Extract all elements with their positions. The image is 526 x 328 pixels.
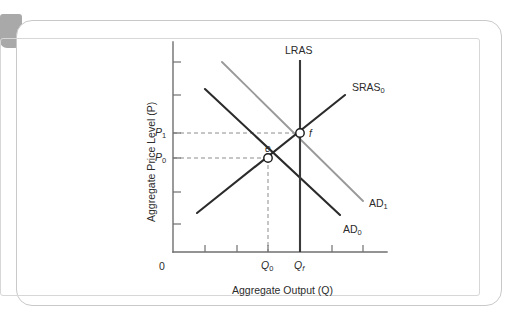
x-tick-label-q0-sub: 0	[269, 264, 273, 273]
curve-label-lras: LRAS	[285, 45, 312, 56]
point-label-e: e	[265, 144, 271, 154]
y-tick-label-p0-base: P	[155, 151, 162, 163]
x-tick-label-q0: Q0	[261, 260, 273, 272]
y-tick-label-p0-sub: 0	[162, 156, 166, 165]
y-tick-label-p1-sub: 1	[162, 131, 166, 140]
x-tick-label-q0-base: Q	[261, 259, 269, 271]
curve-label-ad0-base: AD	[343, 223, 358, 235]
ad-as-plot	[0, 0, 526, 328]
curve-label-sras0: SRAS0	[352, 82, 385, 94]
curve-sras0	[197, 95, 345, 213]
x-axis-ticks	[205, 245, 363, 252]
curve-label-sras0-sub: 0	[381, 86, 385, 95]
curve-label-ad0-sub: 0	[358, 228, 362, 237]
guide-lines	[173, 133, 300, 252]
x-tick-label-qf-sub: f	[302, 264, 304, 273]
point-label-f: f	[309, 129, 312, 139]
curve-label-ad0: AD0	[343, 224, 362, 236]
curve-label-ad1-sub: 1	[384, 202, 388, 211]
x-tick-label-qf-base: Q	[294, 259, 302, 271]
curve-ad1	[222, 62, 363, 201]
point-f-marker	[296, 129, 304, 137]
figure-root: Aggregate Price Level (P) Aggregate Outp…	[0, 0, 526, 328]
y-axis-ticks	[173, 62, 181, 224]
x-tick-label-qf: Qf	[294, 260, 304, 272]
origin-label: 0	[159, 261, 165, 272]
curve-label-ad1: AD1	[369, 198, 388, 210]
y-tick-label-p1-base: P	[155, 126, 162, 138]
x-axis-title: Aggregate Output (Q)	[232, 285, 333, 296]
curve-label-sras0-base: SRAS	[352, 81, 381, 93]
curve-label-ad1-base: AD	[369, 197, 384, 209]
point-e-marker	[264, 154, 272, 162]
y-tick-label-p0: P0	[155, 152, 166, 164]
y-tick-label-p1: P1	[155, 127, 166, 139]
